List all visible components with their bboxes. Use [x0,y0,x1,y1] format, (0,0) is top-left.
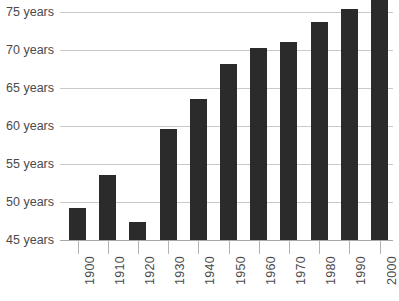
x-axis-label-1910: 1910 [114,256,127,285]
x-axis-label-2000: 2000 [386,256,399,285]
x-axis-label-1920: 1920 [144,256,157,285]
x-axis-label-1980: 1980 [325,256,338,285]
x-axis-tick-1910 [108,241,109,254]
y-axis-label-50: 50 years [0,196,54,209]
x-axis-tick-1900 [78,241,79,254]
plot-area [60,0,393,241]
x-axis-tick-1950 [229,241,230,254]
x-axis-tick-1940 [198,241,199,254]
x-axis-tick-2000 [380,241,381,254]
x-axis-tick-1930 [168,241,169,254]
x-axis-tick-1990 [349,241,350,254]
bar-1920 [129,222,146,240]
bar-1990 [341,9,358,240]
x-axis-label-1950: 1950 [235,256,248,285]
y-axis-label-65: 65 years [0,82,54,95]
y-axis-label-60: 60 years [0,120,54,133]
x-axis-tick-1980 [319,241,320,254]
x-axis-label-1990: 1990 [355,256,368,285]
bar-1900 [69,208,86,240]
y-axis-label-75: 75 years [0,6,54,19]
x-axis-label-1900: 1900 [84,256,97,285]
x-axis-label-1940: 1940 [204,256,217,285]
bar-1910 [99,175,116,240]
x-axis-tick-1920 [138,241,139,254]
bar-1950 [220,64,237,240]
y-axis-label-70: 70 years [0,44,54,57]
bar-1980 [311,22,328,240]
x-axis-tick-1970 [289,241,290,254]
bar-2000 [371,0,388,240]
bar-1930 [160,129,177,240]
x-axis-label-1960: 1960 [265,256,278,285]
y-axis-label-45: 45 years [0,234,54,247]
bar-1940 [190,99,207,240]
bar-1960 [250,48,267,240]
x-axis-line [60,240,393,241]
y-axis-label-55: 55 years [0,158,54,171]
x-axis-tick-1960 [259,241,260,254]
x-axis-label-1970: 1970 [295,256,308,285]
x-axis-label-1930: 1930 [174,256,187,285]
bar-1970 [280,42,297,240]
